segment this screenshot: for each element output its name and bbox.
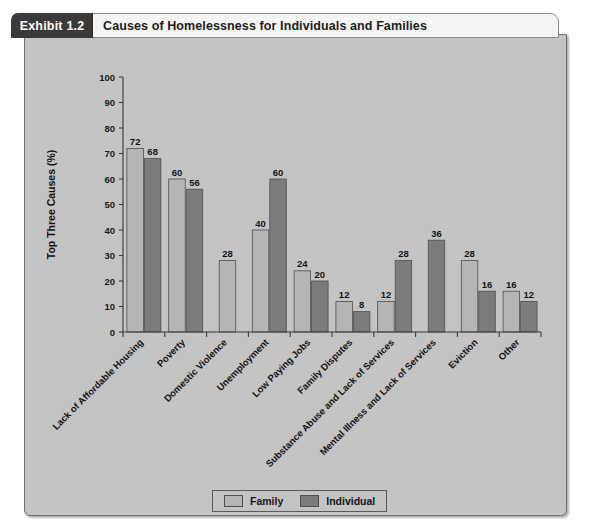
bar-value-label: 28 [222, 248, 233, 259]
bar-family [378, 301, 395, 332]
chart-panel: 0102030405060708090100 72686056284060242… [24, 34, 567, 516]
y-axis-title: Top Three Causes (%) [45, 150, 57, 260]
bar-family [336, 301, 353, 332]
y-tick-label: 70 [104, 148, 115, 159]
exhibit-frame: Exhibit 1.2 Causes of Homelessness for I… [11, 13, 567, 516]
x-category-label: Other [496, 336, 522, 362]
bar-value-label: 72 [130, 136, 141, 147]
bar-value-label: 28 [464, 248, 475, 259]
legend-item: Family [224, 495, 283, 507]
bar-family [127, 148, 143, 332]
bar-family [503, 291, 519, 332]
bar-value-label: 16 [506, 279, 517, 290]
bar-individual [186, 189, 203, 332]
x-axis [123, 332, 541, 337]
chart-legend: FamilyIndividual [212, 490, 387, 512]
bar-individual [428, 240, 445, 332]
y-tick-label: 50 [104, 199, 115, 210]
y-tick-label: 0 [110, 327, 115, 338]
y-tick-label: 60 [104, 174, 115, 185]
bar-value-label: 28 [398, 248, 409, 259]
bar-individual [144, 159, 161, 332]
bar-value-label: 20 [315, 269, 326, 280]
bar-value-label: 12 [381, 289, 392, 300]
legend-label: Individual [326, 495, 375, 507]
bar-value-label: 8 [359, 299, 364, 310]
bar-family [219, 261, 236, 332]
y-axis-title-text: Top Three Causes (%) [45, 150, 57, 260]
exhibit-header: Exhibit 1.2 Causes of Homelessness for I… [11, 13, 559, 38]
bar-value-label: 12 [339, 289, 350, 300]
bar-value-label: 56 [189, 177, 200, 188]
bar-family [169, 179, 186, 332]
bar-value-label: 16 [482, 279, 493, 290]
exhibit-title-bar: Causes of Homelessness for Individuals a… [93, 13, 559, 38]
bar-individual [479, 291, 496, 332]
legend-item: Individual [300, 495, 375, 507]
y-tick-label: 10 [104, 301, 115, 312]
page-title: Causes of Homelessness for Individuals a… [103, 19, 427, 33]
y-tick-label: 30 [104, 250, 115, 261]
x-category-label: Poverty [155, 336, 188, 369]
y-tick-label: 90 [104, 97, 115, 108]
category-labels-layer: Lack of Affordable HousingPovertyDomesti… [50, 336, 522, 469]
bar-value-label: 36 [431, 228, 442, 239]
x-category-label: Lack of Affordable Housing [50, 337, 145, 432]
x-category-label: Eviction [446, 336, 480, 370]
bar-chart: 0102030405060708090100 72686056284060242… [25, 35, 566, 515]
legend-swatch [300, 495, 319, 507]
bar-value-label: 40 [255, 218, 266, 229]
bar-individual [395, 261, 412, 332]
bar-family [252, 230, 268, 332]
y-tick-label: 40 [104, 225, 115, 236]
bar-individual [312, 281, 329, 332]
bar-individual [270, 179, 287, 332]
exhibit-tab-label: Exhibit 1.2 [11, 13, 93, 38]
bar-value-label: 68 [147, 146, 158, 157]
bar-family [294, 271, 311, 332]
legend-swatch [224, 495, 243, 507]
y-axis: 0102030405060708090100 [99, 72, 123, 338]
bar-individual [521, 301, 538, 332]
bar-family [461, 261, 478, 332]
bar-value-label: 12 [524, 289, 535, 300]
y-tick-label: 100 [99, 72, 115, 83]
legend-label: Family [250, 495, 283, 507]
bar-value-label: 24 [297, 258, 308, 269]
y-tick-label: 20 [104, 276, 115, 287]
bar-value-label: 60 [172, 167, 183, 178]
bar-value-label: 60 [273, 167, 284, 178]
bar-individual [353, 312, 370, 332]
y-tick-label: 80 [104, 123, 115, 134]
